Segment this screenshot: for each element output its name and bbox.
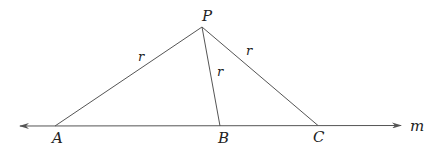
label-point-b: B bbox=[217, 129, 229, 147]
segment-pa bbox=[55, 27, 202, 126]
label-segment-pb: r bbox=[217, 64, 224, 79]
label-point-p: P bbox=[201, 7, 213, 25]
label-segment-pc: r bbox=[246, 43, 253, 58]
label-point-a: A bbox=[50, 129, 63, 147]
geometry-diagram: P A B C m r r r bbox=[0, 0, 442, 154]
label-point-c: C bbox=[313, 128, 325, 146]
line-m bbox=[20, 126, 401, 127]
label-line-m: m bbox=[410, 117, 424, 135]
label-segment-pa: r bbox=[138, 49, 145, 64]
